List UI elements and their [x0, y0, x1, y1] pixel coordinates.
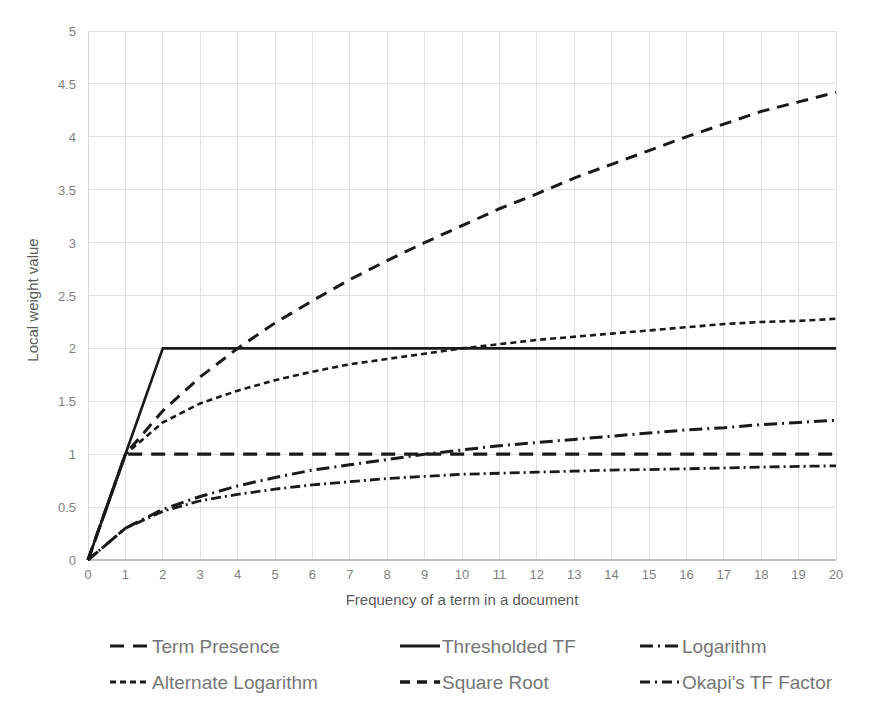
x-tick-label: 8 [384, 567, 391, 582]
x-tick-label: 4 [234, 567, 241, 582]
y-tick-label: 3 [69, 236, 76, 251]
legend-label: Okapi's TF Factor [682, 672, 833, 693]
x-tick-label: 2 [159, 567, 166, 582]
chart-svg: 01234567891011121314151617181920 00.511.… [0, 0, 879, 715]
x-tick-label: 5 [271, 567, 278, 582]
x-axis-tick-labels: 01234567891011121314151617181920 [84, 567, 843, 582]
x-tick-label: 14 [604, 567, 618, 582]
x-tick-label: 13 [567, 567, 581, 582]
x-tick-label: 15 [642, 567, 656, 582]
legend-label: Term Presence [152, 636, 280, 657]
x-tick-label: 19 [791, 567, 805, 582]
y-tick-label: 3.5 [58, 183, 76, 198]
gridlines [88, 31, 836, 560]
x-tick-label: 17 [717, 567, 731, 582]
y-tick-label: 0.5 [58, 500, 76, 515]
x-tick-label: 20 [829, 567, 843, 582]
x-tick-label: 9 [421, 567, 428, 582]
y-tick-label: 4 [69, 130, 76, 145]
x-axis-title: Frequency of a term in a document [346, 591, 579, 608]
x-tick-label: 1 [122, 567, 129, 582]
y-tick-label: 4.5 [58, 77, 76, 92]
legend-label: Alternate Logarithm [152, 672, 318, 693]
x-tick-label: 10 [455, 567, 469, 582]
legend-label: Square Root [442, 672, 549, 693]
x-tick-label: 18 [754, 567, 768, 582]
y-tick-label: 2 [69, 341, 76, 356]
y-tick-label: 1 [69, 447, 76, 462]
y-tick-label: 2.5 [58, 289, 76, 304]
x-tick-label: 11 [493, 567, 507, 582]
y-tick-label: 1.5 [58, 394, 76, 409]
x-tick-label: 0 [84, 567, 91, 582]
x-tick-label: 3 [197, 567, 204, 582]
legend-label: Thresholded TF [442, 636, 576, 657]
x-tick-label: 7 [346, 567, 353, 582]
y-tick-label: 5 [69, 24, 76, 39]
x-tick-label: 16 [679, 567, 693, 582]
y-tick-label: 0 [69, 553, 76, 568]
legend-label: Logarithm [682, 636, 767, 657]
x-tick-label: 6 [309, 567, 316, 582]
y-axis-title: Local weight value [24, 238, 41, 361]
chart-figure: 01234567891011121314151617181920 00.511.… [0, 0, 879, 715]
x-tick-label: 12 [530, 567, 544, 582]
